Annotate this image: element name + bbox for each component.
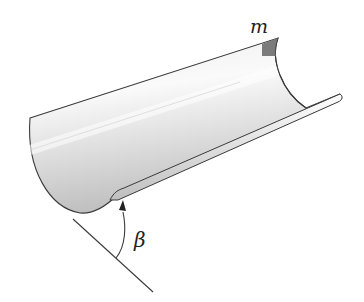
angle-label: β — [133, 228, 146, 252]
half-pipe-diagram: m β — [0, 0, 364, 302]
trough-outer-shell — [30, 38, 340, 213]
angle-arc — [116, 212, 125, 258]
mass-label: m — [250, 15, 268, 37]
angle-arrow-icon — [119, 200, 126, 211]
